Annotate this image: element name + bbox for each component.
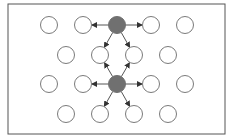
node-grid-diagram [0, 0, 230, 138]
node-r2c1 [58, 47, 75, 64]
node-r3c5 [177, 76, 194, 93]
node-r3c2 [75, 76, 92, 93]
node-r1c5 [177, 17, 194, 34]
edge-layer [92, 25, 142, 106]
active-node-r1c3 [109, 17, 126, 34]
edge-arrow-r3c3-to-r4c3 [121, 91, 129, 106]
active-node-r3c3 [109, 76, 126, 93]
node-r3c1 [41, 76, 58, 93]
node-r1c4 [143, 17, 160, 34]
node-r4c1 [58, 106, 75, 123]
edge-arrow-r1c3-to-r2c2 [104, 32, 112, 47]
node-r3c4 [143, 76, 160, 93]
edge-arrow-r3c3-to-r2c3 [121, 63, 129, 77]
node-r4c4 [160, 106, 177, 123]
edge-arrow-r3c3-to-r2c2 [105, 63, 113, 77]
node-r2c2 [92, 47, 109, 64]
edge-arrow-r3c3-to-r4c2 [104, 91, 112, 106]
node-r4c2 [92, 106, 109, 123]
node-r1c1 [41, 17, 58, 34]
node-layer [41, 17, 194, 123]
node-r2c3 [126, 47, 143, 64]
edge-arrow-r1c3-to-r2c3 [121, 32, 129, 47]
node-r4c3 [126, 106, 143, 123]
node-r1c2 [75, 17, 92, 34]
node-r2c4 [160, 47, 177, 64]
